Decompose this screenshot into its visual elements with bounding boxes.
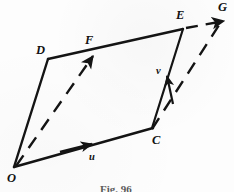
figure-container: O D F E C G u v Fig. 96 xyxy=(0,0,234,192)
vertex-label-D: D xyxy=(36,44,45,57)
vertex-label-G: G xyxy=(218,1,227,14)
edge-O-D xyxy=(14,59,48,167)
vector-parallelogram-diagram xyxy=(0,0,234,192)
figure-caption: Fig. 96 xyxy=(100,184,132,192)
vertex-label-C: C xyxy=(152,134,160,147)
vector-label-v: v xyxy=(156,66,161,77)
edge-D-E xyxy=(48,29,183,59)
edge-O-C xyxy=(14,128,153,167)
dashed-O-F xyxy=(16,56,93,166)
vector-label-u: u xyxy=(89,152,95,163)
vertex-label-F: F xyxy=(85,34,93,47)
vertex-label-E: E xyxy=(176,9,184,22)
dashed-C-G xyxy=(152,22,221,129)
vertex-label-O: O xyxy=(7,172,16,185)
